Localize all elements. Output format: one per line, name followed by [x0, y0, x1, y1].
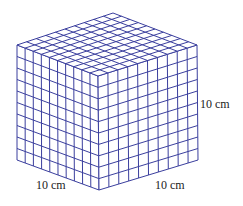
height-label: 10 cm: [200, 97, 230, 112]
right-width-label: 10 cm: [155, 178, 185, 193]
left-width-label: 10 cm: [36, 178, 66, 193]
